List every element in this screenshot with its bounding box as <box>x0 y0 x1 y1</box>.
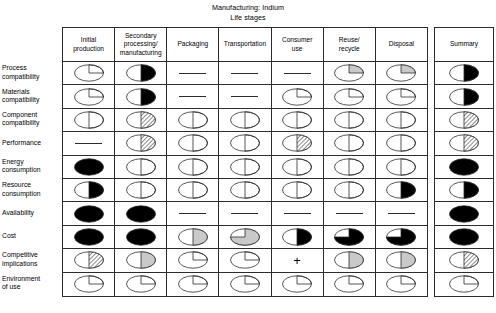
cell-energy-consumption-secondary-processing[interactable] <box>115 156 167 178</box>
cell-availability-secondary-processing[interactable] <box>115 202 167 224</box>
cell-competitive-implications-initial-production[interactable] <box>63 249 115 271</box>
column-header-label: Reuse/recycle <box>339 36 360 52</box>
cell-materials-compatibility-secondary-processing[interactable] <box>115 85 167 107</box>
cell-performance-initial-production[interactable] <box>63 132 115 154</box>
symbol-dash <box>388 213 415 214</box>
symbol-dash <box>179 96 206 97</box>
cell-energy-consumption-reuse-recycle[interactable] <box>324 156 376 178</box>
cell-cost-initial-production[interactable] <box>63 226 115 248</box>
cell-process-compatibility-reuse-recycle[interactable] <box>324 62 376 84</box>
cell-energy-consumption-transportation[interactable] <box>219 156 271 178</box>
matrix-row-materials-compatibility <box>63 85 427 108</box>
cell-availability-initial-production[interactable] <box>63 202 115 224</box>
summary-row-resource-consumption <box>435 179 493 202</box>
cell-process-compatibility-initial-production[interactable] <box>63 62 115 84</box>
cell-energy-consumption-consumer-use[interactable] <box>272 156 324 178</box>
symbol-plus: + <box>293 254 301 267</box>
cell-performance-consumer-use[interactable] <box>272 132 324 154</box>
column-header-reuse-recycle: Reuse/recycle <box>324 28 376 61</box>
cell-resource-consumption-reuse-recycle[interactable] <box>324 179 376 201</box>
cell-competitive-implications-disposal[interactable] <box>376 249 427 271</box>
cell-resource-consumption-summary[interactable] <box>435 179 493 201</box>
symbol-quarter-white <box>229 274 261 294</box>
symbol-half-white <box>125 157 157 177</box>
cell-materials-compatibility-consumer-use[interactable] <box>272 85 324 107</box>
cell-cost-secondary-processing[interactable] <box>115 226 167 248</box>
cell-resource-consumption-transportation[interactable] <box>219 179 271 201</box>
cell-materials-compatibility-initial-production[interactable] <box>63 85 115 107</box>
cell-environment-of-use-secondary-processing[interactable] <box>115 273 167 296</box>
cell-environment-of-use-initial-production[interactable] <box>63 273 115 296</box>
cell-availability-summary[interactable] <box>435 202 493 224</box>
cell-availability-disposal[interactable] <box>376 202 427 224</box>
cell-component-compatibility-disposal[interactable] <box>376 109 427 131</box>
symbol-quarter-white <box>385 274 417 294</box>
cell-environment-of-use-summary[interactable] <box>435 273 493 296</box>
cell-process-compatibility-transportation[interactable] <box>219 62 271 84</box>
cell-performance-packaging[interactable] <box>167 132 219 154</box>
cell-component-compatibility-transportation[interactable] <box>219 109 271 131</box>
cell-energy-consumption-disposal[interactable] <box>376 156 427 178</box>
cell-performance-transportation[interactable] <box>219 132 271 154</box>
cell-environment-of-use-packaging[interactable] <box>167 273 219 296</box>
symbol-full-black <box>125 204 157 224</box>
symbol-half-white <box>229 180 261 200</box>
cell-cost-transportation[interactable] <box>219 226 271 248</box>
cell-performance-reuse-recycle[interactable] <box>324 132 376 154</box>
cell-environment-of-use-transportation[interactable] <box>219 273 271 296</box>
symbol-full-black <box>73 227 105 247</box>
cell-process-compatibility-consumer-use[interactable] <box>272 62 324 84</box>
cell-energy-consumption-summary[interactable] <box>435 156 493 178</box>
cell-competitive-implications-secondary-processing[interactable] <box>115 249 167 271</box>
cell-resource-consumption-disposal[interactable] <box>376 179 427 201</box>
cell-performance-disposal[interactable] <box>376 132 427 154</box>
cell-component-compatibility-reuse-recycle[interactable] <box>324 109 376 131</box>
cell-competitive-implications-summary[interactable] <box>435 249 493 271</box>
cell-cost-summary[interactable] <box>435 226 493 248</box>
cell-availability-transportation[interactable] <box>219 202 271 224</box>
symbol-half-white <box>333 110 365 130</box>
cell-materials-compatibility-summary[interactable] <box>435 85 493 107</box>
symbol-dash <box>231 96 258 97</box>
cell-materials-compatibility-reuse-recycle[interactable] <box>324 85 376 107</box>
cell-resource-consumption-consumer-use[interactable] <box>272 179 324 201</box>
row-label-energy-consumption: Energyconsumption <box>0 155 60 178</box>
cell-process-compatibility-summary[interactable] <box>435 62 493 84</box>
cell-component-compatibility-initial-production[interactable] <box>63 109 115 131</box>
cell-availability-consumer-use[interactable] <box>272 202 324 224</box>
cell-environment-of-use-disposal[interactable] <box>376 273 427 296</box>
symbol-half-black <box>385 180 417 200</box>
cell-component-compatibility-consumer-use[interactable] <box>272 109 324 131</box>
cell-performance-summary[interactable] <box>435 132 493 154</box>
cell-availability-packaging[interactable] <box>167 202 219 224</box>
cell-competitive-implications-packaging[interactable] <box>167 249 219 271</box>
cell-component-compatibility-secondary-processing[interactable] <box>115 109 167 131</box>
cell-energy-consumption-packaging[interactable] <box>167 156 219 178</box>
cell-process-compatibility-secondary-processing[interactable] <box>115 62 167 84</box>
cell-cost-consumer-use[interactable] <box>272 226 324 248</box>
symbol-quarter-white <box>385 87 417 107</box>
cell-environment-of-use-consumer-use[interactable] <box>272 273 324 296</box>
cell-component-compatibility-summary[interactable] <box>435 109 493 131</box>
cell-component-compatibility-packaging[interactable] <box>167 109 219 131</box>
cell-environment-of-use-reuse-recycle[interactable] <box>324 273 376 296</box>
cell-process-compatibility-packaging[interactable] <box>167 62 219 84</box>
column-header-secondary-processing: Secondaryprocessing/manufacturing <box>115 28 167 61</box>
cell-cost-reuse-recycle[interactable] <box>324 226 376 248</box>
cell-resource-consumption-packaging[interactable] <box>167 179 219 201</box>
cell-energy-consumption-initial-production[interactable] <box>63 156 115 178</box>
row-label-competitive-implications: Competitiveimplications <box>0 248 60 271</box>
cell-resource-consumption-secondary-processing[interactable] <box>115 179 167 201</box>
cell-competitive-implications-consumer-use[interactable]: + <box>272 249 324 271</box>
cell-materials-compatibility-transportation[interactable] <box>219 85 271 107</box>
cell-resource-consumption-initial-production[interactable] <box>63 179 115 201</box>
cell-process-compatibility-disposal[interactable] <box>376 62 427 84</box>
cell-competitive-implications-transportation[interactable] <box>219 249 271 271</box>
cell-materials-compatibility-disposal[interactable] <box>376 85 427 107</box>
cell-performance-secondary-processing[interactable] <box>115 132 167 154</box>
cell-competitive-implications-reuse-recycle[interactable] <box>324 249 376 271</box>
cell-cost-packaging[interactable] <box>167 226 219 248</box>
cell-cost-disposal[interactable] <box>376 226 427 248</box>
cell-materials-compatibility-packaging[interactable] <box>167 85 219 107</box>
cell-availability-reuse-recycle[interactable] <box>324 202 376 224</box>
